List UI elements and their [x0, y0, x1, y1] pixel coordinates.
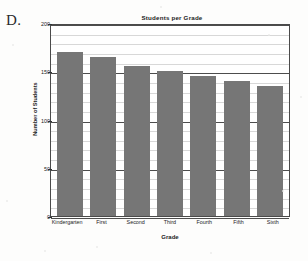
- scan-speckle: [300, 96, 302, 98]
- bar-column: [53, 25, 86, 216]
- y-tick-mark: [48, 121, 52, 122]
- x-axis-title: Grade: [50, 234, 290, 240]
- y-tick-mark: [48, 24, 52, 25]
- chart-title: Students per Grade: [50, 14, 294, 21]
- x-tick-label: Fourth: [187, 219, 221, 225]
- bar-chart: Students per Grade 050100150200 Number o…: [50, 10, 294, 255]
- scan-speckle: [30, 120, 32, 122]
- y-tick-mark: [48, 72, 52, 73]
- bar: [57, 52, 83, 216]
- y-tick-mark: [48, 169, 52, 170]
- bar-column: [254, 25, 287, 216]
- x-tick-label: Second: [119, 219, 153, 225]
- scan-speckle: [44, 250, 46, 252]
- scan-speckle: [210, 252, 212, 254]
- scan-speckle: [96, 246, 98, 248]
- bar-column: [187, 25, 220, 216]
- bar: [124, 66, 150, 216]
- x-tick-label: First: [84, 219, 118, 225]
- x-tick-label: Fifth: [221, 219, 255, 225]
- y-tick-mark: [48, 217, 52, 218]
- bar-column: [153, 25, 186, 216]
- bar-series: [51, 25, 289, 216]
- x-tick-label: Third: [153, 219, 187, 225]
- plot-area: [50, 24, 290, 217]
- bar-column: [86, 25, 119, 216]
- figure-panel: D. Students per Grade 050100150200 Numbe…: [0, 0, 308, 261]
- scan-speckle: [160, 6, 162, 8]
- bar: [224, 81, 250, 216]
- y-tick-label: 150: [10, 69, 50, 75]
- scan-speckle: [282, 190, 284, 192]
- y-tick-label: 50: [10, 166, 50, 172]
- bar-column: [120, 25, 153, 216]
- scan-speckle: [268, 34, 270, 36]
- y-tick-label: 0: [10, 214, 50, 220]
- y-tick-label: 200: [10, 21, 50, 27]
- bar: [257, 86, 283, 216]
- y-axis-title: Number of Students: [32, 82, 38, 135]
- scan-speckle: [6, 200, 8, 202]
- x-axis-ticks: KindergartenFirstSecondThirdFourthFifthS…: [50, 219, 290, 225]
- x-tick-label: Sixth: [256, 219, 290, 225]
- x-tick-label: Kindergarten: [50, 219, 84, 225]
- bar-column: [220, 25, 253, 216]
- bar: [157, 71, 183, 216]
- scan-speckle: [12, 44, 14, 46]
- bar: [90, 57, 116, 216]
- bar: [190, 76, 216, 216]
